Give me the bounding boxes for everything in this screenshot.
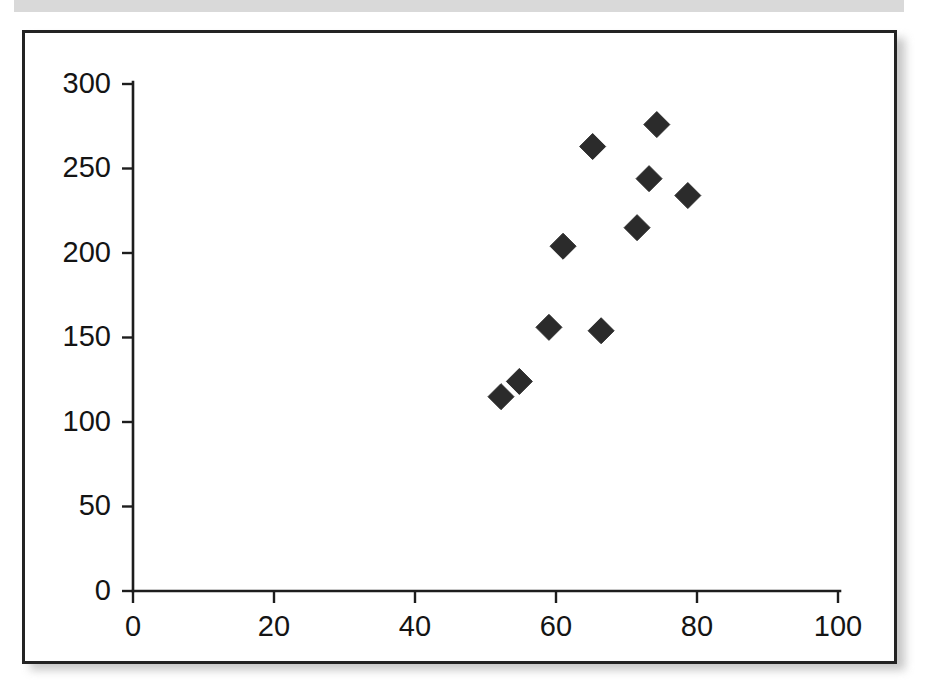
y-tick-label: 200 bbox=[63, 236, 111, 268]
y-tick-label: 250 bbox=[63, 151, 111, 183]
x-tick-label: 60 bbox=[540, 610, 572, 642]
data-point-marker bbox=[536, 314, 562, 340]
axis-lines bbox=[133, 82, 840, 591]
y-tick-label: 50 bbox=[79, 489, 111, 521]
data-markers bbox=[488, 112, 701, 410]
x-tick-label: 80 bbox=[681, 610, 713, 642]
y-tick-label: 100 bbox=[63, 405, 111, 437]
x-axis-ticks: 020406080100 bbox=[125, 591, 862, 642]
y-tick-label: 150 bbox=[63, 320, 111, 352]
data-point-marker bbox=[506, 368, 532, 394]
y-tick-label: 300 bbox=[63, 67, 111, 99]
x-tick-label: 20 bbox=[258, 610, 290, 642]
data-point-marker bbox=[580, 134, 606, 160]
x-tick-label: 0 bbox=[125, 610, 141, 642]
chart-figure-frame: 050100150200250300 020406080100 bbox=[22, 30, 897, 664]
screenshot-page: 050100150200250300 020406080100 bbox=[0, 0, 929, 698]
scatter-plot: 050100150200250300 020406080100 bbox=[25, 33, 900, 667]
data-point-marker bbox=[488, 384, 514, 410]
y-axis-ticks: 050100150200250300 bbox=[63, 67, 133, 606]
data-point-marker bbox=[624, 215, 650, 241]
data-point-marker bbox=[675, 183, 701, 209]
data-point-marker bbox=[636, 166, 662, 192]
scan-artifact-band bbox=[14, 0, 904, 12]
data-point-marker bbox=[588, 318, 614, 344]
x-tick-label: 100 bbox=[814, 610, 862, 642]
x-tick-label: 40 bbox=[399, 610, 431, 642]
data-point-marker bbox=[550, 233, 576, 259]
data-point-marker bbox=[644, 112, 670, 138]
y-tick-label: 0 bbox=[95, 574, 111, 606]
